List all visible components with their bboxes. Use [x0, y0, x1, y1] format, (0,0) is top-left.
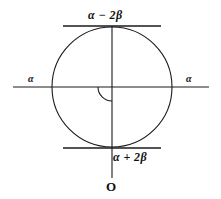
bottom-tangent-label: α + 2β: [113, 151, 147, 163]
angle-arc: [98, 87, 112, 101]
left-axis-label: α: [28, 74, 34, 84]
figure-canvas: [0, 0, 221, 199]
right-axis-label: α: [186, 74, 192, 84]
origin-label: O: [106, 180, 117, 193]
geometry-figure: α − 2β α + 2β α α O: [0, 0, 221, 199]
top-tangent-label: α − 2β: [88, 9, 122, 21]
